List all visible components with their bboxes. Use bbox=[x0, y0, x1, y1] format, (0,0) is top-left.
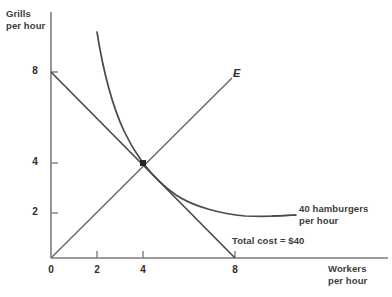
x-tick-label-8: 8 bbox=[227, 264, 243, 275]
tangency-point-marker bbox=[140, 160, 146, 166]
y-axis-title: Grills per hour bbox=[6, 8, 45, 31]
isoquant-leader-line bbox=[272, 215, 296, 216]
y-tick-label-4: 4 bbox=[27, 156, 43, 167]
x-tick-label-2: 2 bbox=[89, 264, 105, 275]
expansion-path-label: E bbox=[233, 67, 240, 79]
isoquant-annotation: 40 hamburgers per hour bbox=[299, 203, 368, 226]
y-tick-label-8: 8 bbox=[27, 65, 43, 76]
chart-plot-area bbox=[0, 0, 392, 297]
x-axis-title: Workers per hour bbox=[328, 263, 367, 286]
expansion-path-line bbox=[51, 78, 232, 258]
isocost-annotation: Total cost = $40 bbox=[232, 235, 304, 247]
x-tick-label-4: 4 bbox=[135, 264, 151, 275]
figure-canvas: Grills per hour Workers per hour 8 4 2 0… bbox=[0, 0, 392, 297]
isoquant-curve bbox=[97, 32, 296, 216]
y-tick-label-2: 2 bbox=[27, 206, 43, 217]
x-tick-label-0: 0 bbox=[43, 264, 59, 275]
